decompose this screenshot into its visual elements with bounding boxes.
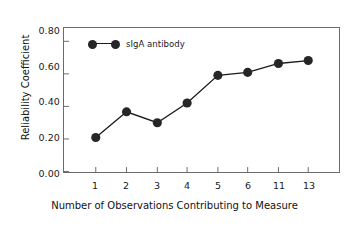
- data-point: [213, 71, 222, 80]
- data-point: [183, 98, 192, 107]
- chart-figure: 0.00 0.20 0.40 0.60 0.80 1 2 3 4 5 6 11 …: [0, 0, 349, 227]
- data-point: [304, 56, 313, 65]
- y-tick-label-2: 0.40: [26, 97, 60, 107]
- x-tick-label-0: 1: [92, 181, 98, 191]
- legend-marker-icon: [88, 39, 120, 49]
- x-tick-label-3: 4: [184, 181, 190, 191]
- y-tick-label-3: 0.60: [26, 62, 60, 72]
- data-point: [91, 133, 100, 142]
- data-point: [122, 107, 131, 116]
- x-axis-tick-labels: 1 2 3 4 5 6 11 13: [0, 181, 349, 195]
- y-axis-title: Reliability Coefficient: [20, 13, 31, 163]
- x-tick-label-2: 3: [154, 181, 160, 191]
- x-tick-marks: [96, 167, 308, 172]
- x-axis-title: Number of Observations Contributing to M…: [0, 200, 349, 211]
- x-tick-label-7: 13: [303, 181, 315, 191]
- data-point: [274, 59, 283, 68]
- series-line-siga-antibody: [96, 61, 308, 138]
- x-tick-label-6: 11: [273, 181, 285, 191]
- chart-legend: sIgA antibody: [88, 37, 185, 51]
- y-tick-label-4: 0.80: [26, 26, 60, 36]
- legend-entry-label: sIgA antibody: [126, 39, 185, 49]
- data-point: [243, 68, 252, 77]
- x-tick-label-5: 6: [245, 181, 251, 191]
- y-tick-marks: [64, 41, 69, 171]
- x-tick-label-1: 2: [123, 181, 129, 191]
- y-tick-label-1: 0.20: [26, 133, 60, 143]
- x-tick-label-4: 5: [215, 181, 221, 191]
- y-tick-label-0: 0.00: [26, 169, 60, 179]
- data-point: [153, 118, 162, 127]
- series-markers-siga-antibody: [91, 56, 313, 142]
